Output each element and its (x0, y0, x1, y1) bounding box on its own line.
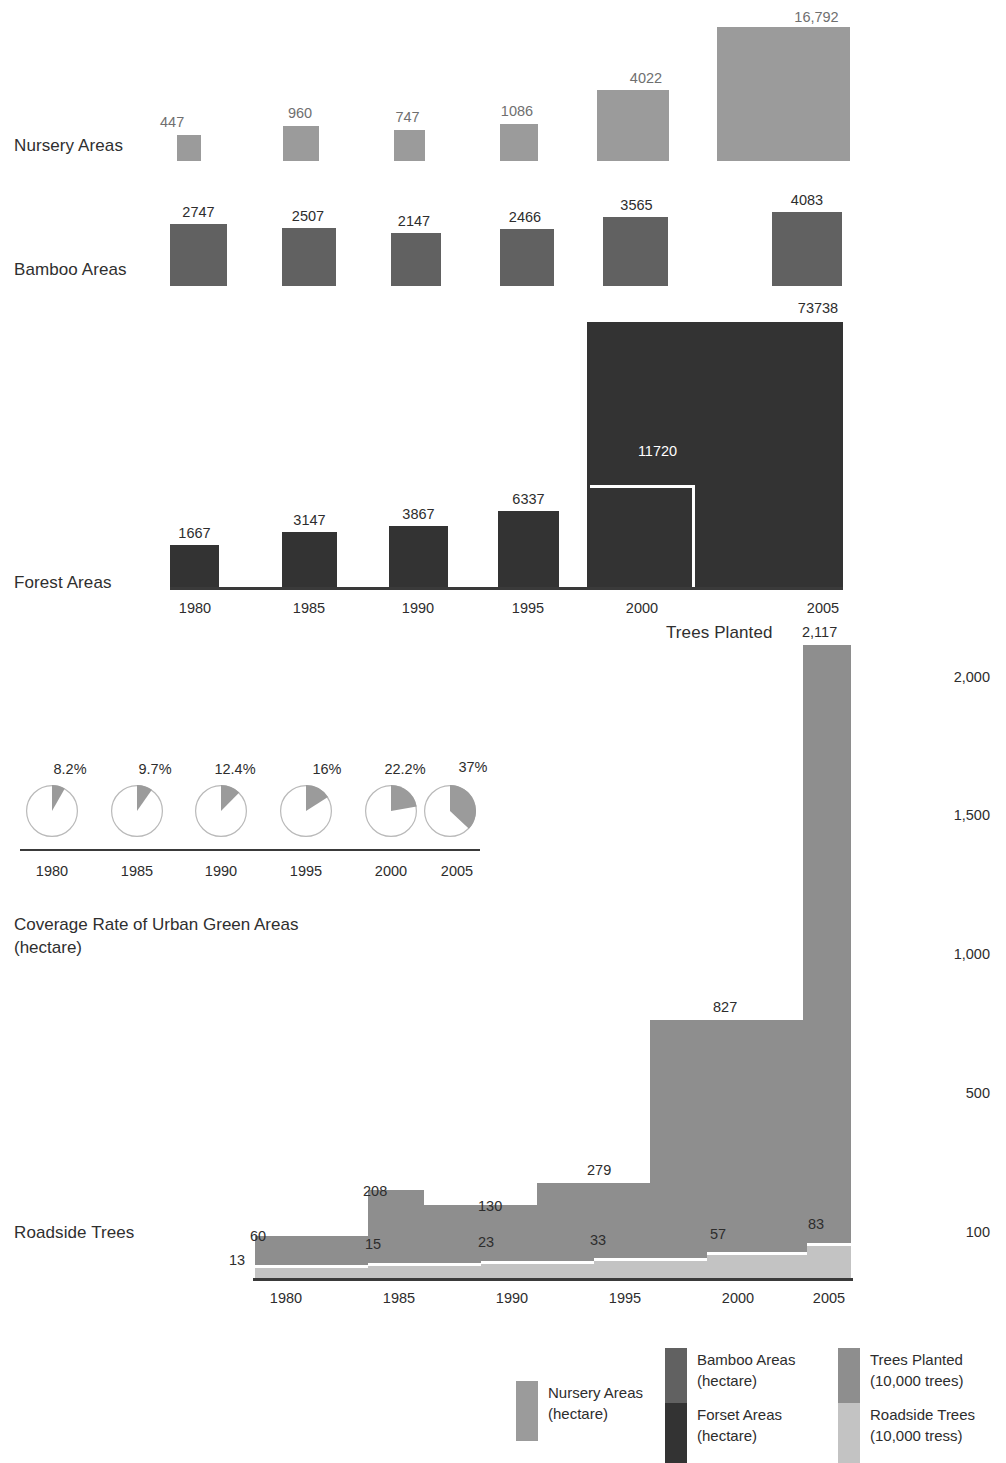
trees-axis-tick-1980: 1980 (256, 1290, 316, 1306)
forest-axis-tick-1980: 1980 (165, 600, 225, 616)
forest-bar-1980 (170, 545, 219, 587)
roadside-value-2000: 57 (710, 1226, 754, 1242)
row-label-roadside-trees: Roadside Trees (14, 1223, 134, 1243)
forest-value-1995: 6337 (498, 491, 559, 507)
coverage-rate-caption: Coverage Rate of Urban Green Areas (hect… (14, 913, 434, 959)
nursery-value-2000: 4022 (610, 70, 682, 86)
forest-value-1985: 3147 (282, 512, 337, 528)
pie-value-2005: 37% (438, 759, 508, 775)
forest-axis-tick-2000: 2000 (612, 600, 672, 616)
pie-value-1990: 12.4% (200, 761, 270, 777)
bamboo-bar-1995 (500, 229, 554, 286)
trees-axis-tick-1990: 1990 (482, 1290, 542, 1306)
forest-axis-tick-2005: 2005 (793, 600, 853, 616)
legend-item-forest: Forset Areas (hectare) (665, 1403, 782, 1463)
bamboo-bar-2000 (603, 217, 668, 286)
pie-2000 (365, 785, 417, 837)
right-axis-label-2000: 2,000 (940, 669, 990, 685)
nursery-bar-1985 (283, 126, 319, 161)
nursery-bar-1995 (500, 124, 538, 161)
legend-label-forest: Forset Areas (hectare) (697, 1403, 782, 1446)
pie-axis-tick-1980: 1980 (22, 863, 82, 879)
roadside-value-2005: 83 (808, 1216, 852, 1232)
roadside-step-2005 (807, 1243, 851, 1278)
nursery-value-1980: 447 (160, 114, 184, 130)
trees-planted-value-2000: 827 (713, 999, 765, 1015)
bamboo-bar-1990 (391, 233, 441, 286)
pie-1985 (111, 785, 163, 837)
bamboo-value-2005: 4083 (772, 192, 842, 208)
pie-axis-tick-1990: 1990 (191, 863, 251, 879)
trees-planted-value-1980: 60 (250, 1228, 302, 1244)
bamboo-bar-1980 (170, 224, 227, 286)
bamboo-value-2000: 3565 (604, 197, 669, 213)
bamboo-bar-2005 (772, 212, 842, 286)
trees-planted-value-1990: 130 (478, 1198, 530, 1214)
trees-planted-step-2005 (803, 645, 851, 1278)
nursery-value-2005: 16,792 (750, 9, 883, 25)
legend-label-bamboo: Bamboo Areas (hectare) (697, 1348, 795, 1391)
legend-label-trees-planted: Trees Planted (10,000 trees) (870, 1348, 963, 1391)
legend-item-roadside: Roadside Trees (10,000 tress) (838, 1403, 975, 1463)
right-axis-label-1000: 1,000 (940, 946, 990, 962)
right-axis-label-1500: 1,500 (940, 807, 990, 823)
pie-2005 (424, 785, 476, 837)
nursery-bar-1990 (394, 130, 425, 161)
trees-axis-line (253, 1278, 853, 1281)
roadside-step-1990 (481, 1261, 594, 1278)
roadside-step-1995 (594, 1258, 707, 1278)
row-label-forest-areas: Forest Areas (14, 573, 112, 593)
trees-axis-tick-2000: 2000 (708, 1290, 768, 1306)
legend-swatch-trees-planted (838, 1348, 860, 1408)
roadside-value-1985: 15 (365, 1236, 409, 1252)
trees-axis-tick-2005: 2005 (799, 1290, 859, 1306)
nursery-value-1990: 747 (392, 109, 423, 125)
forest-value-1980: 1667 (170, 525, 219, 541)
pie-1990 (195, 785, 247, 837)
bamboo-bar-1985 (282, 228, 336, 286)
pie-value-1985: 9.7% (120, 761, 190, 777)
roadside-value-1995: 33 (590, 1232, 634, 1248)
pie-value-1980: 8.2% (35, 761, 105, 777)
trees-planted-value-1995: 279 (587, 1162, 639, 1178)
row-label-nursery-areas: Nursery Areas (14, 136, 123, 156)
trees-axis-tick-1985: 1985 (369, 1290, 429, 1306)
pie-1995 (280, 785, 332, 837)
forest-value-2005: 73738 (690, 300, 946, 316)
forest-axis-tick-1990: 1990 (388, 600, 448, 616)
bamboo-value-1995: 2466 (498, 209, 552, 225)
forest-bar-1985 (282, 532, 337, 587)
pie-axis-tick-1995: 1995 (276, 863, 336, 879)
bamboo-value-1980: 2747 (170, 204, 227, 220)
forest-axis-tick-1985: 1985 (279, 600, 339, 616)
right-axis-label-500: 500 (940, 1085, 990, 1101)
legend-item-nursery: Nursery Areas (hectare) (516, 1381, 643, 1441)
pie-axis-tick-1985: 1985 (107, 863, 167, 879)
forest-bar-1990 (389, 526, 448, 587)
trees-axis-tick-1995: 1995 (595, 1290, 655, 1306)
bamboo-value-1990: 2147 (389, 213, 439, 229)
trees-planted-value-1985: 208 (363, 1183, 415, 1199)
legend-swatch-forest (665, 1403, 687, 1463)
trees-planted-value-2005: 2,117 (802, 624, 854, 640)
nursery-bar-1980 (177, 135, 201, 161)
pie-axis-line (20, 849, 480, 851)
pie-axis-tick-2005: 2005 (427, 863, 487, 879)
right-axis-label-100: 100 (940, 1224, 990, 1240)
forest-bar-1995 (498, 511, 559, 587)
pie-1980 (26, 785, 78, 837)
pie-axis-tick-2000: 2000 (361, 863, 421, 879)
forest-bar-2000 (590, 485, 695, 587)
roadside-step-1985 (368, 1263, 481, 1278)
legend-swatch-nursery (516, 1381, 538, 1441)
pie-value-1995: 16% (292, 761, 362, 777)
nursery-bar-2005 (717, 27, 850, 161)
nursery-value-1995: 1086 (498, 103, 536, 119)
legend-swatch-roadside (838, 1403, 860, 1463)
forest-axis-line (170, 587, 843, 590)
row-label-bamboo-areas: Bamboo Areas (14, 260, 127, 280)
label-trees-planted: Trees Planted (666, 623, 773, 643)
legend-swatch-bamboo (665, 1348, 687, 1408)
nursery-value-1985: 960 (282, 105, 318, 121)
